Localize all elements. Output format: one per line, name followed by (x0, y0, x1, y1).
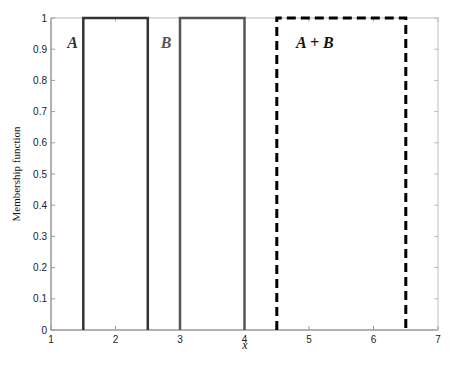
axes: 123456700.10.20.30.40.50.60.70.80.91 (33, 13, 441, 346)
x-tick-label: 7 (435, 334, 441, 345)
annotations: ABA + B (66, 34, 334, 51)
series-ab-line (277, 18, 406, 330)
y-tick-label: 0.6 (33, 137, 47, 148)
x-tick-label: 2 (113, 334, 119, 345)
y-tick-label: 0.3 (33, 231, 47, 242)
y-tick-label: 0.8 (33, 75, 47, 86)
annotation-label: A + B (295, 34, 334, 51)
series-b-line (180, 18, 245, 330)
y-tick-label: 0 (41, 325, 47, 336)
series-a-line (83, 18, 148, 330)
annotation-label: B (160, 34, 172, 51)
y-tick-label: 1 (41, 13, 47, 24)
annotation-label: A (66, 34, 78, 51)
y-tick-label: 0.1 (33, 293, 47, 304)
x-tick-label: 5 (306, 334, 312, 345)
y-tick-label: 0.2 (33, 262, 47, 273)
x-axis-label: x (241, 338, 248, 352)
x-tick-label: 1 (48, 334, 54, 345)
y-tick-label: 0.9 (33, 44, 47, 55)
y-tick-label: 0.4 (33, 200, 47, 211)
y-tick-label: 0.5 (33, 169, 47, 180)
membership-chart: 123456700.10.20.30.40.50.60.70.80.91 ABA… (0, 0, 455, 366)
y-tick-label: 0.7 (33, 106, 47, 117)
x-tick-label: 6 (371, 334, 377, 345)
series-group (83, 18, 406, 330)
x-tick-label: 3 (177, 334, 183, 345)
y-axis-label: Membership function (10, 126, 22, 222)
